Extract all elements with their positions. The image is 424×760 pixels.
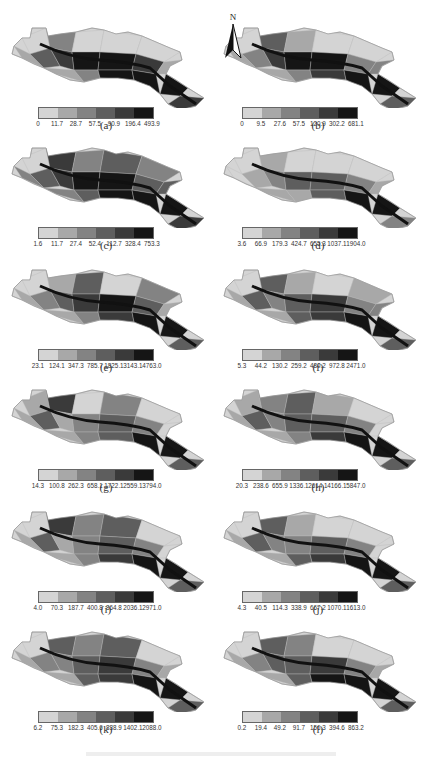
north-label: N (222, 12, 244, 22)
legend-swatch (58, 592, 77, 602)
legend-swatch (39, 470, 58, 480)
legend-swatch (134, 592, 153, 602)
figure-caption (0, 744, 424, 752)
watershed-map (212, 128, 424, 228)
legend-swatch (115, 592, 134, 602)
map-panel-d: 3.6 66.9 179.3 424.7 655.3 1037.1 1904.0… (212, 128, 424, 248)
legend-swatch (58, 108, 77, 118)
legend-color-ramp (242, 591, 358, 603)
legend-swatch (96, 228, 115, 238)
legend-swatch (134, 470, 153, 480)
legend-swatch (39, 108, 58, 118)
map-panel-l: 0.2 19.4 49.2 91.7 156.3 394.6 863.2 (l) (212, 612, 424, 732)
legend-swatch (281, 350, 300, 360)
legend-swatch (96, 470, 115, 480)
watershed-map (0, 492, 212, 592)
legend-swatch (281, 228, 300, 238)
legend-color-ramp (38, 349, 154, 361)
legend-swatch (134, 228, 153, 238)
legend-swatch (134, 350, 153, 360)
legend-color-ramp (242, 349, 358, 361)
legend-swatch (77, 350, 96, 360)
legend-color-ramp (38, 227, 154, 239)
legend-swatch (39, 592, 58, 602)
legend-swatch (281, 592, 300, 602)
legend-swatch (96, 592, 115, 602)
map-panel-k: 6.2 75.3 182.3 405.6 838.9 1402.1 2088.0… (0, 612, 212, 732)
legend-swatch (39, 350, 58, 360)
watershed-map (0, 128, 212, 228)
legend-swatch (300, 108, 319, 118)
legend-swatch (58, 712, 77, 722)
legend-swatch (338, 470, 357, 480)
legend-swatch (319, 228, 338, 238)
legend-color-ramp (242, 107, 358, 119)
map-panel-a: 0 11.7 28.7 57.5 90.9 196.4 493.9 (a) (0, 8, 212, 128)
legend-color-ramp (242, 227, 358, 239)
legend-swatch (77, 108, 96, 118)
map-panel-j: 4.3 40.5 114.3 338.9 667.2 1070.1 1613.0… (212, 492, 424, 612)
legend-swatch (262, 228, 281, 238)
legend-swatch (134, 712, 153, 722)
legend-swatch (96, 350, 115, 360)
legend-swatch (243, 228, 262, 238)
legend-swatch (115, 228, 134, 238)
legend-swatch (300, 228, 319, 238)
map-panel-g: 14.3 100.8 262.3 658.1 1722.1 2559.1 379… (0, 370, 212, 490)
legend-swatch (300, 470, 319, 480)
panel-label: (l) (212, 723, 424, 735)
legend-swatch (300, 592, 319, 602)
legend-swatch (319, 592, 338, 602)
watershed-map (0, 370, 212, 470)
map-panel-c: 1.6 11.7 27.4 52.4 112.7 328.4 753.3 (c) (0, 128, 212, 248)
legend-swatch (115, 470, 134, 480)
legend-swatch (77, 712, 96, 722)
legend-swatch (262, 592, 281, 602)
legend-swatch (319, 470, 338, 480)
legend-color-ramp (38, 591, 154, 603)
legend-swatch (281, 470, 300, 480)
legend-swatch (338, 228, 357, 238)
legend-swatch (300, 350, 319, 360)
legend-swatch (243, 350, 262, 360)
legend-color-ramp (38, 711, 154, 723)
legend-swatch (338, 350, 357, 360)
legend-swatch (39, 712, 58, 722)
watershed-map (0, 612, 212, 712)
legend-color-ramp (242, 711, 358, 723)
watershed-map (212, 250, 424, 350)
legend-color-ramp (242, 469, 358, 481)
watershed-map (212, 370, 424, 470)
legend-swatch (77, 228, 96, 238)
map-panel-h: 20.3 238.6 655.9 1336.1 2614.1 4166.1 58… (212, 370, 424, 490)
legend-swatch (96, 712, 115, 722)
map-panel-e: 23.1 124.1 347.3 785.7 1825.1 3143.1 476… (0, 250, 212, 370)
legend-swatch (58, 470, 77, 480)
legend-swatch (262, 470, 281, 480)
legend-swatch (134, 108, 153, 118)
watershed-map (0, 8, 212, 108)
legend-swatch (77, 470, 96, 480)
legend-swatch (243, 470, 262, 480)
legend-swatch (77, 592, 96, 602)
legend-swatch (281, 712, 300, 722)
map-panel-i: 4.0 70.3 187.7 400.8 864.8 2036.1 2971.0… (0, 492, 212, 612)
legend-swatch (281, 108, 300, 118)
map-panel-f: 5.3 44.2 130.2 259.2 480.2 972.8 2471.0 … (212, 250, 424, 370)
watershed-map (0, 250, 212, 350)
legend-swatch (96, 108, 115, 118)
legend-swatch (39, 228, 58, 238)
legend-swatch (115, 108, 134, 118)
legend-swatch (58, 350, 77, 360)
legend-swatch (262, 350, 281, 360)
legend-swatch (319, 712, 338, 722)
legend-swatch (115, 712, 134, 722)
legend-swatch (338, 712, 357, 722)
legend-swatch (319, 108, 338, 118)
legend-swatch (262, 108, 281, 118)
legend-swatch (319, 350, 338, 360)
legend-swatch (243, 712, 262, 722)
watershed-map (212, 492, 424, 592)
legend-swatch (338, 592, 357, 602)
north-arrow-icon (222, 22, 244, 62)
